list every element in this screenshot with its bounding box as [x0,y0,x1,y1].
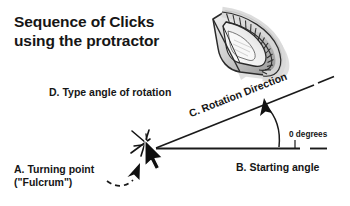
label-starting-angle: B. Starting angle [236,161,319,174]
label-turning-point-fulcrum: A. Turning point ("Fulcrum") [14,163,94,189]
protractor-icon [213,11,289,80]
mouse-cursor-icon [145,140,163,170]
curved-rotation-arrow-icon [260,98,279,147]
label-type-angle-of-rotation: D. Type angle of rotation [49,86,171,99]
dashed-curved-arrow-icon [107,163,140,186]
label-zero-degrees: 0 degrees [289,130,327,140]
rotation-ray-dash-segment [318,77,334,84]
slide-canvas: Sequence of Clicks using the protractor … [0,0,350,206]
page-title: Sequence of Clicks using the protractor [14,13,159,51]
